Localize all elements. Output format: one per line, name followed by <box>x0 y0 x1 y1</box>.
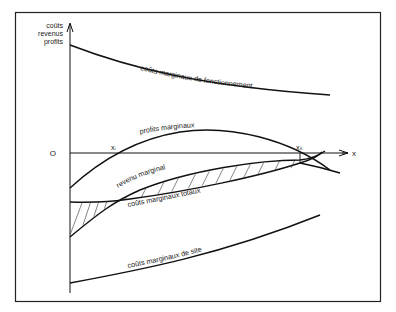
curve-label-profits: profits marginaux <box>139 120 195 136</box>
x-axis-label: x <box>352 149 356 158</box>
svg-text:profits marginaux: profits marginaux <box>139 120 195 136</box>
svg-text:coûts marginaux de fonctionnem: coûts marginaux de fonctionnement <box>140 63 253 90</box>
curve-profits: profits marginaux <box>70 120 330 188</box>
y-axis-label-line1: coûts <box>46 22 63 29</box>
x-k-label: xₖ <box>296 143 303 152</box>
curve-label-fonctionnement: coûts marginaux de fonctionnement <box>140 63 253 90</box>
svg-text:revenu marginal: revenu marginal <box>115 162 167 189</box>
y-axis-label-line3: profits <box>44 38 64 46</box>
curve-couts-fonctionnement: coûts marginaux de fonctionnement <box>70 45 330 95</box>
point-x-i: xᵢ <box>111 143 116 152</box>
economic-diagram: coûts revenus profits x O coûts marginau… <box>0 0 396 312</box>
origin-label: O <box>50 149 56 158</box>
curve-label-revenu: revenu marginal <box>115 162 167 189</box>
curve-revenu: revenu marginal <box>70 151 325 237</box>
curve-couts-site: coûts marginaux de site <box>70 215 320 283</box>
x-i-label: xᵢ <box>111 143 116 152</box>
y-axis-label-line2: revenus <box>38 30 63 37</box>
